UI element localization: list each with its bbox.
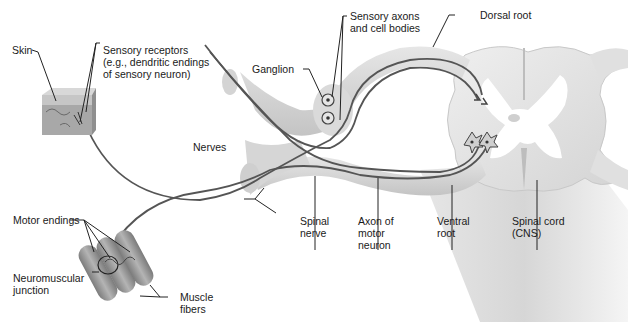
label-sensory-receptors: Sensory receptors (e.g., dendritic endin…: [103, 44, 209, 80]
label-dorsal-root: Dorsal root: [480, 9, 531, 21]
label-nerves: Nerves: [193, 141, 226, 153]
label-ventral-root: Ventral root: [437, 215, 470, 239]
label-spinal-cord: Spinal cord (CNS): [512, 215, 565, 239]
label-muscle-fibers: Muscle fibers: [180, 291, 213, 315]
label-spinal-nerve: Spinal nerve: [300, 215, 329, 239]
label-skin: Skin: [12, 44, 32, 56]
label-neuromuscular-junction: Neuromuscular junction: [13, 272, 84, 296]
muscle-fibers: [75, 227, 157, 304]
skin-block: [42, 88, 96, 135]
label-sensory-axons: Sensory axons and cell bodies: [350, 10, 420, 34]
label-axon-motor-neuron: Axon of motor neuron: [358, 215, 394, 251]
label-ganglion: Ganglion: [252, 63, 294, 75]
label-motor-endings: Motor endings: [13, 214, 80, 226]
nervous-system-diagram: [0, 0, 628, 322]
